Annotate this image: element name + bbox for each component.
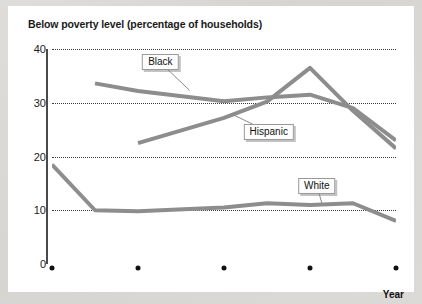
y-axis-line [46,49,48,264]
callout-label-white: White [298,178,336,194]
series-line-white [52,165,396,221]
y-tick-label: 40 [34,43,46,55]
x-tick-dot [308,266,313,271]
y-tick-label: 30 [34,97,46,109]
chart-card: Below poverty level (percentage of house… [8,6,414,292]
callout-label-hispanic: Hispanic [244,124,294,140]
plot-area: 010203040 19611971198119912001 BlackHisp… [52,49,396,264]
x-tick-dot [50,266,55,271]
chart-title: Below poverty level (percentage of house… [28,18,262,30]
chart-figure: Below poverty level (percentage of house… [0,0,422,304]
y-tick-label: 10 [34,204,46,216]
x-tick-dot [136,266,141,271]
x-axis-title: Year [383,289,404,300]
x-tick-dot [222,266,227,271]
data-lines [52,49,396,264]
x-tick-dot [394,266,399,271]
callout-label-black: Black [142,54,178,70]
y-tick-label: 0 [40,258,46,270]
y-tick-label: 20 [34,151,46,163]
